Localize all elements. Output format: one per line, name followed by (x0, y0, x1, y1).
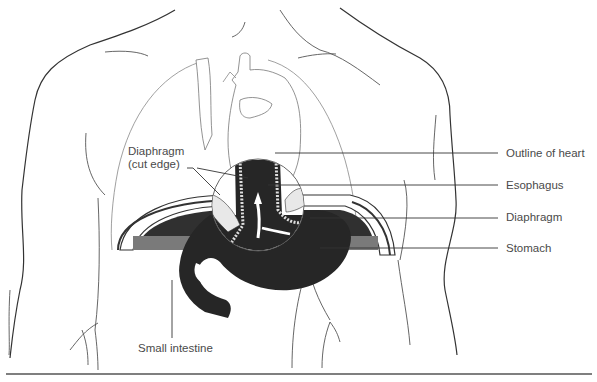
label-esophagus: Esophagus (506, 179, 564, 192)
label-stomach: Stomach (506, 242, 551, 255)
label-diaphragm-cut-edge: Diaphragm (cut edge) (128, 145, 184, 171)
label-small-intestine: Small intestine (138, 342, 213, 355)
label-outline-of-heart: Outline of heart (506, 147, 585, 160)
label-diaphragm-cut-edge-line2: (cut edge) (128, 158, 184, 171)
label-diaphragm-cut-edge-line1: Diaphragm (128, 145, 184, 158)
label-diaphragm: Diaphragm (506, 211, 562, 224)
